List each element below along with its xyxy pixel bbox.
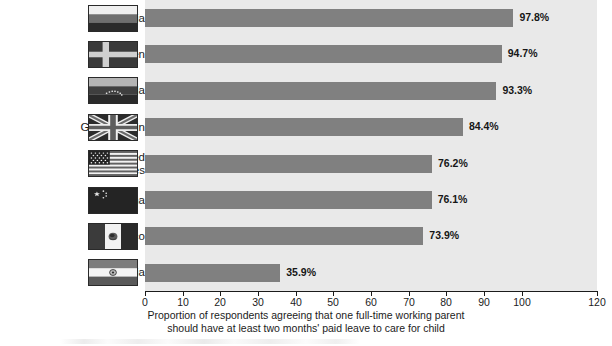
page-edge-artifact: [60, 339, 360, 344]
x-tick-label: 30: [252, 296, 264, 308]
bar-value-label: 94.7%: [508, 44, 538, 63]
x-tick-label: 20: [214, 296, 226, 308]
bar-value-label: 97.8%: [519, 8, 549, 27]
x-tick-label: 50: [327, 296, 339, 308]
bar: [145, 118, 463, 136]
x-tick-label: 10: [177, 296, 189, 308]
bar: [145, 191, 432, 209]
x-tick-label: 80: [440, 296, 452, 308]
bar: [145, 45, 502, 63]
x-tick-label: 100: [513, 296, 531, 308]
bar: [145, 9, 513, 27]
x-tick-label: 40: [290, 296, 302, 308]
bar-chart-figure: RussiaSwedenVenezuelaGreat BritainUnited…: [0, 0, 612, 346]
bar: [145, 227, 423, 245]
x-axis-caption-line-2: should have at least two months' paid le…: [0, 322, 612, 335]
bar-value-label: 73.9%: [429, 226, 459, 245]
bar-row: 73.9%: [0, 218, 612, 254]
x-tick-label: 90: [478, 296, 490, 308]
bar: [145, 264, 280, 282]
x-tick-label: 70: [403, 296, 415, 308]
bar: [145, 155, 432, 173]
bar-value-label: 93.3%: [502, 81, 532, 100]
bar-value-label: 76.2%: [438, 154, 468, 173]
bar: [145, 82, 496, 100]
bar-row: 76.1%: [0, 182, 612, 218]
bar-row: 84.4%: [0, 109, 612, 145]
bar-value-label: 84.4%: [469, 117, 499, 136]
bar-value-label: 76.1%: [438, 190, 468, 209]
bar-value-label: 35.9%: [286, 263, 316, 282]
bar-row: 35.9%: [0, 255, 612, 291]
bar-row: 93.3%: [0, 73, 612, 109]
x-tick-label: 120: [588, 296, 606, 308]
x-axis-caption: Proportion of respondents agreeing that …: [0, 309, 612, 335]
x-tick-label: 0: [142, 296, 148, 308]
bar-row: 97.8%: [0, 0, 612, 36]
x-axis-caption-line-1: Proportion of respondents agreeing that …: [0, 309, 612, 322]
x-tick-label: 60: [365, 296, 377, 308]
bar-row: 94.7%: [0, 36, 612, 72]
bar-row: 76.2%: [0, 146, 612, 182]
